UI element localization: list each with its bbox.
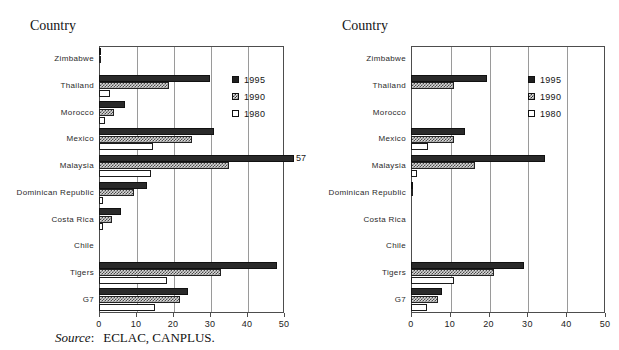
legend-label: 1995 bbox=[244, 75, 265, 85]
solid-black-swatch bbox=[232, 76, 239, 83]
x-tick-mark bbox=[173, 313, 174, 317]
category-label: Dominican Republic bbox=[2, 188, 94, 197]
legend-item[interactable]: 1995 bbox=[232, 70, 265, 87]
bar-1990 bbox=[99, 56, 101, 63]
legend-label: 1980 bbox=[244, 109, 265, 119]
axis-title-country: Country bbox=[30, 18, 76, 34]
bar-1995 bbox=[411, 182, 413, 189]
x-tick-mark bbox=[99, 313, 100, 317]
x-tick-label: 0 bbox=[84, 319, 114, 329]
category-label: Chile bbox=[312, 241, 406, 250]
x-tick-mark bbox=[136, 313, 137, 317]
right-chart-panel: Country01020304050ZimbabweThailandMorocc… bbox=[310, 8, 619, 328]
hatched-gray-swatch bbox=[232, 93, 239, 100]
source-separator: : bbox=[91, 330, 95, 345]
bar-1990 bbox=[411, 296, 438, 303]
bar-1990 bbox=[99, 136, 192, 143]
category-label: G7 bbox=[312, 295, 406, 304]
category-label: Tigers bbox=[2, 268, 94, 277]
bar-1980 bbox=[99, 90, 110, 97]
category-label: Mexico bbox=[312, 134, 406, 143]
x-tick-mark bbox=[527, 313, 528, 317]
x-tick-label: 30 bbox=[195, 319, 225, 329]
x-tick-label: 10 bbox=[435, 319, 465, 329]
x-tick-label: 50 bbox=[269, 319, 299, 329]
bar-1980 bbox=[411, 277, 454, 284]
x-tick-mark bbox=[210, 313, 211, 317]
category-label: Costa Rica bbox=[2, 215, 94, 224]
bar-1990 bbox=[99, 162, 229, 169]
source-note: Source:ECLAC, CANPLUS. bbox=[55, 330, 215, 346]
category-label: Dominican Republic bbox=[312, 188, 406, 197]
x-tick-mark bbox=[284, 313, 285, 317]
legend: 199519901980 bbox=[528, 70, 561, 121]
x-tick-mark bbox=[450, 313, 451, 317]
x-tick-mark bbox=[247, 313, 248, 317]
bar-1995 bbox=[99, 262, 277, 269]
x-tick-label: 20 bbox=[158, 319, 188, 329]
solid-black-swatch bbox=[528, 76, 535, 83]
bar-1995 bbox=[411, 75, 487, 82]
bar-1995 bbox=[99, 128, 214, 135]
bar-1990 bbox=[411, 162, 475, 169]
legend-item[interactable]: 1980 bbox=[232, 104, 265, 121]
category-label: Tigers bbox=[312, 268, 406, 277]
legend-item[interactable]: 1980 bbox=[528, 104, 561, 121]
x-tick-mark bbox=[605, 313, 606, 317]
bar-1980 bbox=[99, 117, 105, 124]
legend-item[interactable]: 1990 bbox=[232, 87, 265, 104]
bar-1990 bbox=[411, 82, 454, 89]
bar-1980 bbox=[99, 277, 167, 284]
bar-1980 bbox=[99, 143, 153, 150]
category-label: Mexico bbox=[2, 134, 94, 143]
category-label: Malaysia bbox=[2, 161, 94, 170]
x-tick-label: 30 bbox=[512, 319, 542, 329]
category-label: Thailand bbox=[312, 81, 406, 90]
bar-1995 bbox=[411, 288, 442, 295]
white-swatch bbox=[528, 110, 535, 117]
bar-1990 bbox=[99, 216, 112, 223]
category-label: Zimbabwe bbox=[2, 54, 94, 63]
x-tick-label: 40 bbox=[551, 319, 581, 329]
bar-1995 bbox=[99, 48, 101, 55]
x-tick-label: 50 bbox=[590, 319, 619, 329]
bar-1980 bbox=[411, 143, 428, 150]
bar-1990 bbox=[99, 109, 114, 116]
x-tick-label: 0 bbox=[396, 319, 426, 329]
figure-sheet: Country01020304050ZimbabweThailandMorocc… bbox=[0, 0, 619, 350]
category-label: Costa Rica bbox=[312, 215, 406, 224]
legend-item[interactable]: 1990 bbox=[528, 87, 561, 104]
legend-label: 1990 bbox=[540, 92, 561, 102]
bar-value-label: 57 bbox=[296, 153, 306, 163]
bar-1990 bbox=[99, 82, 169, 89]
left-chart-panel: Country01020304050ZimbabweThailandMorocc… bbox=[0, 8, 310, 328]
bar-1990 bbox=[411, 136, 454, 143]
x-tick-mark bbox=[489, 313, 490, 317]
category-label: Zimbabwe bbox=[312, 54, 406, 63]
bar-1990 bbox=[99, 296, 180, 303]
category-label: Morocco bbox=[2, 108, 94, 117]
category-label: Malaysia bbox=[312, 161, 406, 170]
bar-1980 bbox=[411, 170, 417, 177]
bar-1980 bbox=[99, 223, 103, 230]
bar-1995 bbox=[411, 128, 465, 135]
legend-label: 1980 bbox=[540, 109, 561, 119]
legend-item[interactable]: 1995 bbox=[528, 70, 561, 87]
bar-1995 bbox=[99, 101, 125, 108]
category-label: G7 bbox=[2, 295, 94, 304]
bar-1995 bbox=[99, 75, 210, 82]
legend: 199519901980 bbox=[232, 70, 265, 121]
x-tick-label: 20 bbox=[474, 319, 504, 329]
bar-1990 bbox=[99, 269, 221, 276]
bar-1980 bbox=[99, 304, 155, 311]
bar-1990 bbox=[99, 189, 134, 196]
bar-1980 bbox=[411, 304, 427, 311]
legend-label: 1990 bbox=[244, 92, 265, 102]
bar-1995 bbox=[411, 155, 545, 162]
gridline bbox=[567, 47, 568, 312]
bar-1995 bbox=[99, 182, 147, 189]
x-tick-mark bbox=[566, 313, 567, 317]
x-tick-mark bbox=[411, 313, 412, 317]
bar-1995 bbox=[411, 262, 524, 269]
category-label: Chile bbox=[2, 241, 94, 250]
